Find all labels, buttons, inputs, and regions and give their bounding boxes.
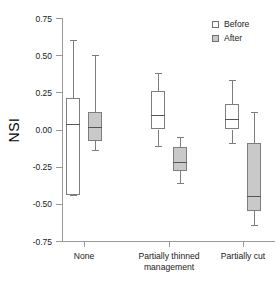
y-tick: 0.50: [56, 55, 62, 56]
x-axis-title: management: [144, 262, 194, 272]
cap-upper: [155, 73, 162, 74]
median-line: [66, 124, 80, 125]
cap-upper: [251, 112, 258, 113]
cap-lower: [229, 143, 236, 144]
cap-lower: [70, 195, 77, 196]
boxplot-after-0: [88, 0, 102, 287]
y-tick: 0.00: [56, 130, 62, 131]
boxplot-chart: NSI 0.750.500.250.00-0.25-0.50-0.75 None…: [0, 0, 280, 287]
cap-upper: [177, 137, 184, 138]
median-line: [247, 196, 261, 197]
legend-swatch-after-icon: [212, 35, 219, 42]
boxplot-before-0: [66, 0, 80, 287]
y-tick: -0.50: [56, 204, 62, 205]
y-tick-label: 0.00: [35, 126, 56, 135]
x-group-label: Partially thinned: [138, 252, 199, 262]
y-tick-label: -0.75: [33, 237, 56, 246]
x-group-label: None: [74, 252, 95, 262]
y-axis-line: [62, 18, 63, 242]
whisker-upper: [180, 137, 181, 147]
whisker-upper: [73, 40, 74, 98]
legend: Before After: [212, 18, 249, 46]
legend-item-after: After: [212, 32, 249, 44]
legend-item-before: Before: [212, 18, 249, 30]
y-tick-label: 0.25: [35, 89, 56, 98]
whisker-lower: [158, 130, 159, 146]
box-iqr: [225, 104, 239, 129]
median-line: [173, 162, 187, 163]
box-iqr: [247, 143, 261, 211]
x-tick: [84, 241, 85, 247]
x-group-label: Partially cut: [221, 252, 265, 262]
legend-swatch-before-icon: [212, 21, 219, 28]
whisker-upper: [158, 73, 159, 91]
y-tick-label: -0.50: [33, 200, 56, 209]
boxplot-after-1: [173, 0, 187, 287]
cap-upper: [229, 80, 236, 81]
y-tick: -0.25: [56, 167, 62, 168]
median-line: [151, 115, 165, 116]
cap-lower: [177, 183, 184, 184]
whisker-upper: [95, 55, 96, 111]
median-line: [88, 127, 102, 128]
cap-lower: [155, 146, 162, 147]
whisker-lower: [95, 141, 96, 150]
box-iqr: [173, 147, 187, 171]
y-tick: 0.75: [56, 18, 62, 19]
cap-lower: [92, 150, 99, 151]
legend-label-after: After: [224, 33, 242, 43]
y-tick-label: 0.50: [35, 51, 56, 60]
boxplot-before-1: [151, 0, 165, 287]
y-tick-label: -0.25: [33, 163, 56, 172]
whisker-upper: [254, 112, 255, 143]
median-line: [225, 119, 239, 120]
y-tick: 0.25: [56, 92, 62, 93]
y-tick: -0.75: [56, 241, 62, 242]
whisker-lower: [232, 130, 233, 143]
cap-lower: [251, 225, 258, 226]
x-tick: [169, 241, 170, 247]
y-axis-title: NSI: [6, 118, 22, 143]
box-iqr: [66, 98, 80, 195]
legend-label-before: Before: [224, 19, 249, 29]
whisker-lower: [180, 171, 181, 183]
box-iqr: [151, 91, 165, 130]
whisker-upper: [232, 80, 233, 104]
whisker-lower: [254, 211, 255, 224]
cap-upper: [70, 40, 77, 41]
y-tick-label: 0.75: [35, 14, 56, 23]
x-tick: [243, 241, 244, 247]
cap-upper: [92, 55, 99, 56]
